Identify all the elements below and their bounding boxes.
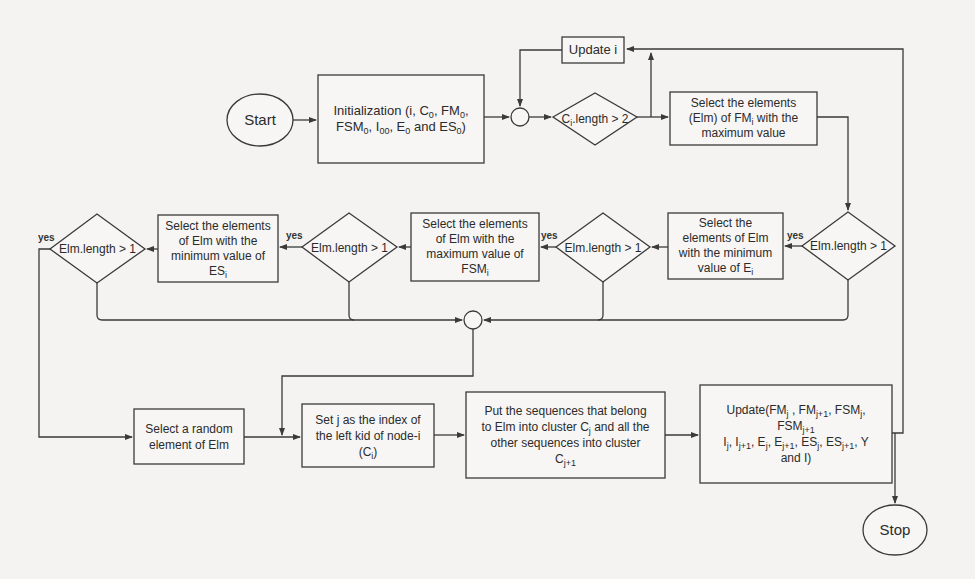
update-all-label: Update(FMj , FMj+1, FSMj, FSMj+1 Ij, Ij+… bbox=[700, 385, 892, 483]
cond3-label: Elm.length > 1 bbox=[302, 213, 397, 282]
cond2-yes-label: yes bbox=[541, 230, 558, 241]
update-i-label: Update i bbox=[562, 37, 624, 63]
edge-cond1-no-junction bbox=[484, 280, 848, 320]
select-random-label: Select a random element of Elm bbox=[134, 409, 244, 464]
init-label: Initialization (i, C0, FM0, FSM0, I00, E… bbox=[318, 75, 484, 163]
cond-ci-label: Ci.length > 2 bbox=[553, 93, 637, 145]
select-e-label: Select the elements of Elm with the mini… bbox=[668, 213, 783, 279]
cond4-yes-label: yes bbox=[38, 232, 55, 243]
cond3-yes-label: yes bbox=[286, 230, 303, 241]
edge-cond3-no bbox=[349, 282, 354, 320]
bleed-through-line-1 bbox=[300, 466, 304, 483]
select-fm-label: Select the elements (Elm) of FMi with th… bbox=[670, 92, 817, 145]
stop-label: Stop bbox=[863, 505, 927, 555]
edge-cond2-no bbox=[598, 282, 603, 320]
put-sequences-label: Put the sequences that belong to Elm int… bbox=[466, 392, 665, 478]
cond4-label: Elm.length > 1 bbox=[50, 214, 145, 283]
set-j-label: Set j as the index of the left kid of no… bbox=[302, 404, 434, 467]
edge-cond4-no-junction bbox=[97, 283, 462, 320]
junction-middle bbox=[464, 311, 482, 329]
select-es-label: Select the elements of Elm with the mini… bbox=[158, 215, 278, 282]
start-label: Start bbox=[227, 94, 293, 146]
select-fsm-label: Select the elements of Elm with the maxi… bbox=[411, 213, 539, 281]
cond2-label: Elm.length > 1 bbox=[556, 213, 650, 282]
edge-selectfm-cond1 bbox=[817, 117, 848, 210]
junction-top bbox=[511, 108, 529, 126]
cond1-yes-label: yes bbox=[787, 230, 804, 241]
cond1-label: Elm.length > 1 bbox=[802, 212, 895, 280]
flowchart-canvas bbox=[0, 0, 975, 579]
